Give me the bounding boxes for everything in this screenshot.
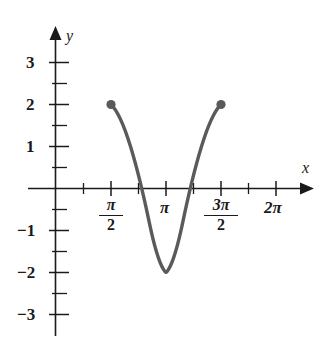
x-tick-label-3pi-over-2: 3π 2	[204, 197, 238, 234]
y-axis-label: y	[66, 28, 73, 44]
endpoint-dot-right	[216, 100, 225, 109]
x-tick-label-pi: π	[160, 199, 169, 216]
graph-figure: 3 2 1 −1 −2 −3 π 2 π 3π 2 2π y x	[0, 0, 331, 343]
y-tick-label-3: 3	[26, 54, 35, 71]
pi-numerator: π	[99, 197, 123, 214]
endpoint-dot-left	[106, 100, 115, 109]
y-tick-label-neg2: −2	[17, 264, 35, 281]
y-tick-label-neg3: −3	[17, 306, 35, 323]
three-pi-numerator: 3π	[204, 197, 238, 214]
x-tick-label-2pi: 2π	[264, 199, 282, 216]
y-axis-arrowhead	[50, 26, 62, 40]
x-tick-label-pi-over-2: π 2	[99, 197, 123, 234]
y-tick-label-1: 1	[26, 138, 35, 155]
two-denominator: 2	[204, 217, 238, 234]
two-denominator: 2	[99, 217, 123, 234]
x-axis-arrowhead	[300, 183, 314, 195]
y-tick-label-neg1: −1	[17, 222, 35, 239]
x-axis-label: x	[302, 160, 309, 176]
y-tick-label-2: 2	[26, 96, 35, 113]
coordinate-plot	[0, 0, 331, 343]
